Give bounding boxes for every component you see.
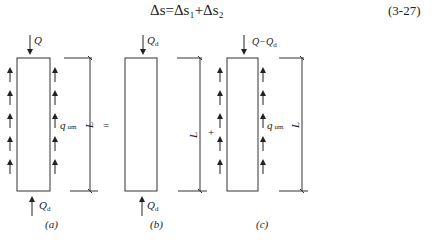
pile-body — [227, 58, 258, 191]
panel-a: Q qum L Qd (a) — [10, 34, 98, 231]
length-label: L — [289, 122, 301, 129]
plus-operator: + — [208, 126, 214, 138]
bottom-load-label: Qd — [39, 199, 51, 213]
side-load-label: qum — [267, 119, 284, 131]
length-label: L — [83, 122, 95, 129]
top-load-label: Q−Qd — [252, 36, 277, 49]
pile-body — [125, 58, 157, 191]
side-load-label: qum — [60, 119, 77, 131]
caption-c: (c) — [256, 218, 269, 231]
length-label: L — [187, 132, 199, 139]
caption-b: (b) — [150, 218, 163, 231]
length-dimension — [177, 56, 207, 193]
top-load-label: Qd — [147, 34, 159, 48]
pile-body — [17, 58, 50, 191]
bottom-load-label: Qd — [147, 199, 159, 213]
panel-c: Q−Qd qum L (c) — [220, 35, 308, 231]
equals-operator: = — [103, 119, 109, 131]
top-load-label: Q — [34, 34, 42, 46]
pile-load-diagram: Q qum L Qd (a) = — [0, 0, 432, 240]
caption-a: (a) — [45, 218, 58, 231]
panel-b: Qd L Qd (b) — [125, 34, 207, 231]
